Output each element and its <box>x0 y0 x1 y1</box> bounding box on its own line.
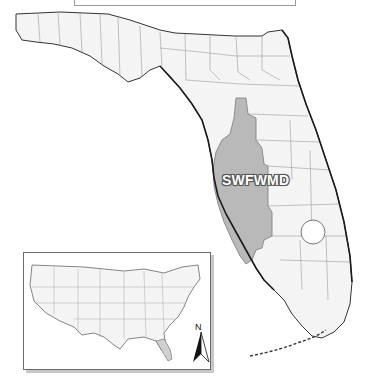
us-outline <box>30 265 200 351</box>
florida-highlight <box>156 339 172 361</box>
north-arrow-icon <box>191 322 211 364</box>
us-inset-map <box>23 252 211 370</box>
lake-okeechobee <box>301 220 325 244</box>
us-map <box>24 253 210 369</box>
swfwmd-label: SWFWMD <box>222 172 289 188</box>
